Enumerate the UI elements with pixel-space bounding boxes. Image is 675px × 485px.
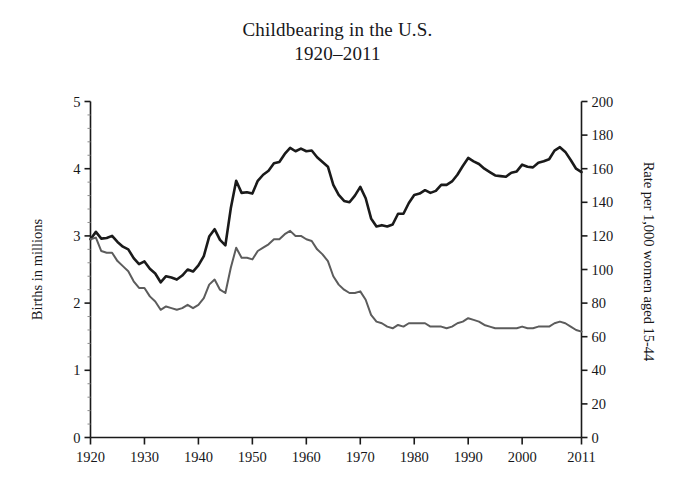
bottom-axis-tick-label: 1960 <box>292 449 321 465</box>
bottom-axis-tick-label: 1930 <box>130 449 159 465</box>
right-axis-title: Rate per 1,000 women aged 15-44 <box>641 162 657 362</box>
bottom-axis-tick-label: 1990 <box>454 449 483 465</box>
right-axis-tick-label: 200 <box>592 94 614 110</box>
left-axis-tick-label: 2 <box>73 295 80 311</box>
bottom-axis-tick-label: 2000 <box>508 449 537 465</box>
right-axis: 020406080100120140160180200 <box>582 94 614 446</box>
right-axis-tick-label: 180 <box>592 127 614 143</box>
left-axis-tick-label: 1 <box>73 362 80 378</box>
bottom-axis-tick-label: 1940 <box>184 449 213 465</box>
bottom-axis-tick-label: 2011 <box>567 449 595 465</box>
right-axis-tick-label: 20 <box>592 396 607 412</box>
births-line-series <box>91 147 582 282</box>
chart-plot-area: 012345 020406080100120140160180200 19201… <box>0 0 675 485</box>
left-axis: 012345 <box>73 94 90 446</box>
left-axis-title: Births in millions <box>29 218 45 320</box>
right-axis-tick-label: 160 <box>592 161 614 177</box>
left-axis-tick-label: 0 <box>73 430 80 446</box>
chart-figure: Childbearing in the U.S. 1920–2011 01234… <box>0 0 675 485</box>
axis-titles: Births in millionsRate per 1,000 women a… <box>29 162 657 362</box>
right-axis-tick-label: 140 <box>592 194 614 210</box>
right-axis-tick-label: 100 <box>592 262 614 278</box>
data-series-group <box>91 147 582 331</box>
right-axis-tick-label: 60 <box>592 329 607 345</box>
bottom-axis-tick-label: 1950 <box>238 449 267 465</box>
left-axis-tick-label: 3 <box>73 228 80 244</box>
bottom-axis-tick-label: 1970 <box>346 449 375 465</box>
left-axis-tick-label: 5 <box>73 94 80 110</box>
bottom-axis-tick-label: 1920 <box>76 449 105 465</box>
right-axis-tick-label: 120 <box>592 228 614 244</box>
left-axis-tick-label: 4 <box>73 161 81 177</box>
bottom-axis-tick-label: 1980 <box>400 449 429 465</box>
right-axis-tick-label: 80 <box>592 295 607 311</box>
rate-line-series <box>91 231 582 332</box>
right-axis-tick-label: 40 <box>592 362 607 378</box>
bottom-axis: 1920193019401950196019701980199020002011 <box>76 438 596 465</box>
right-axis-tick-label: 0 <box>592 430 599 446</box>
